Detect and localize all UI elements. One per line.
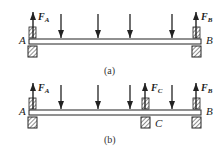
point-label-b: B: [206, 34, 213, 46]
support-a: [28, 83, 37, 128]
support-block: [28, 46, 37, 57]
support-block: [192, 46, 201, 57]
beam: [29, 39, 201, 44]
force-label-fb: FB: [200, 11, 213, 24]
beam: [29, 110, 201, 115]
force-label-fc: FC: [150, 82, 163, 95]
caption-a: (a): [104, 65, 115, 77]
support-block: [141, 117, 150, 128]
support-a: [28, 12, 37, 57]
force-label-fa: FA: [37, 11, 50, 24]
force-label-fa: FA: [37, 82, 50, 95]
beam-diagram: A FA B FB (a) A FA: [0, 0, 223, 156]
point-label-b: B: [206, 105, 213, 117]
panel-b: A FA C FC B FB (b): [18, 82, 213, 146]
point-label-a: A: [18, 34, 26, 46]
panel-a: A FA B FB (a): [18, 11, 213, 77]
force-label-fb: FB: [200, 82, 213, 95]
point-label-c: C: [155, 117, 163, 129]
caption-b: (b): [104, 134, 116, 146]
support-block: [192, 117, 201, 128]
support-c: [141, 83, 150, 128]
support-block: [28, 117, 37, 128]
point-label-a: A: [18, 105, 26, 117]
support-b: [192, 12, 201, 57]
support-b: [192, 83, 201, 128]
